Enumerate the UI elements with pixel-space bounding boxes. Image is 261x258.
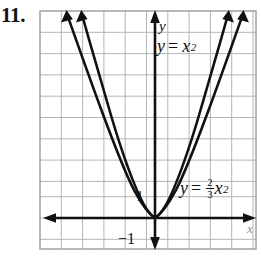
curve-label-two-thirds-x-squared: y = 2 3 x 2 (180, 177, 229, 200)
x-axis-label: x (247, 221, 253, 237)
y-tick-label-one: 1 (136, 188, 144, 205)
figure-container: 11. (0, 0, 261, 258)
curve-label-two-thirds-variable: x (215, 178, 223, 199)
fraction-denominator: 3 (206, 188, 213, 200)
curve-label-two-thirds-lhs: y (180, 178, 188, 199)
graph-canvas (39, 10, 257, 250)
curve-label-x-squared: y = x 2 (157, 36, 196, 57)
x-tick-label-negative-one: −1 (118, 230, 135, 248)
curve-label-two-thirds-relation: = (191, 178, 201, 199)
curve-label-two-thirds-exponent: 2 (223, 183, 229, 195)
problem-number: 11. (1, 4, 25, 26)
curve-label-x-squared-variable: x (182, 36, 190, 57)
curve-label-x-squared-relation: = (168, 36, 178, 57)
y-axis-label: y (159, 18, 166, 35)
curve-label-x-squared-lhs: y (157, 36, 165, 57)
curve-label-two-thirds-fraction: 2 3 (206, 177, 213, 200)
fraction-numerator: 2 (206, 177, 213, 188)
graph-figure: y x y = x 2 y = 2 3 x 2 1 (39, 10, 257, 250)
curve-label-x-squared-exponent: 2 (191, 41, 197, 53)
